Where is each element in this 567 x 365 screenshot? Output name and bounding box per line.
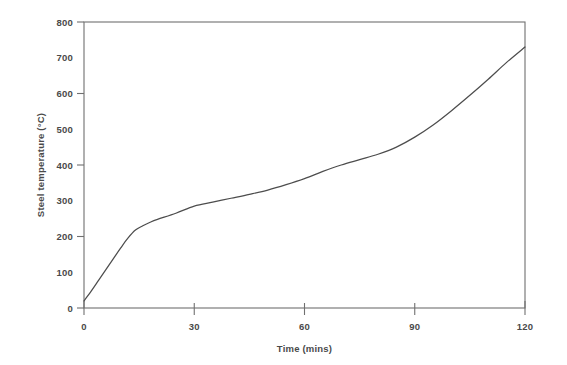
y-tick-label: 300 [57,195,73,206]
x-tick-label: 30 [189,321,200,332]
y-axis-title: Steel temperature (°C) [35,113,46,217]
y-tick-label: 600 [57,88,73,99]
x-axis-title: Time (mins) [277,343,332,354]
chart-background [0,0,567,365]
x-tick-label: 0 [81,321,86,332]
line-chart-svg: 0 100 200 300 400 500 600 700 800 0 30 6… [0,0,567,365]
y-tick-label: 200 [57,231,73,242]
y-tick-label: 500 [57,124,73,135]
chart-figure: 0 100 200 300 400 500 600 700 800 0 30 6… [0,0,567,365]
y-tick-label: 800 [57,17,73,28]
x-tick-label: 90 [409,321,420,332]
y-tick-label: 400 [57,160,73,171]
y-tick-labels: 0 100 200 300 400 500 600 700 800 [57,17,73,314]
y-tick-label: 100 [57,267,73,278]
x-tick-label: 120 [517,321,533,332]
y-tick-label: 700 [57,52,73,63]
y-tick-label: 0 [68,303,73,314]
x-tick-label: 60 [299,321,310,332]
